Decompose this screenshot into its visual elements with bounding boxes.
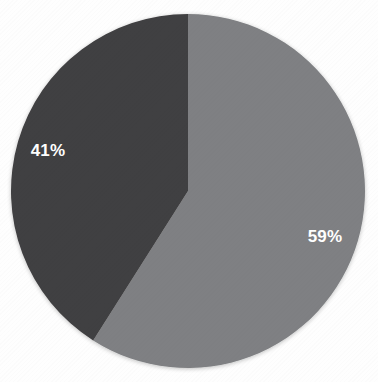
pie-slice-label-41: 41%: [31, 141, 66, 160]
pie-slices-group: [11, 14, 365, 368]
pie-chart-figure: 59% 41%: [0, 0, 378, 382]
pie-slice-label-59: 59%: [308, 227, 343, 246]
pie-chart-svg: 59% 41%: [0, 0, 378, 382]
